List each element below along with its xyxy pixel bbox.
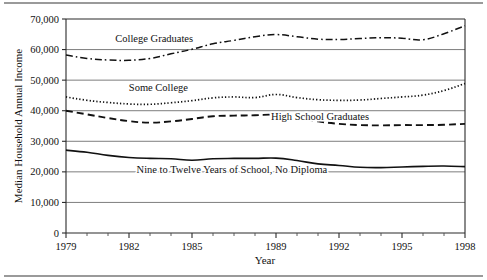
x-tick-label: 1982 (119, 241, 140, 252)
figure-container: 010,00020,00030,00040,00050,00060,00070,… (0, 0, 487, 280)
series-line-1 (66, 84, 465, 105)
series-line-2 (66, 111, 465, 126)
x-tick-label: 1989 (266, 241, 287, 252)
y-tick-label: 30,000 (30, 136, 59, 147)
y-tick-group: 010,00020,00030,00040,00050,00060,00070,… (30, 14, 66, 239)
x-tick-label: 1979 (56, 241, 77, 252)
series-label-0: College Graduates (115, 33, 193, 44)
x-tick-label: 1985 (182, 241, 203, 252)
x-tick-label: 1995 (392, 241, 413, 252)
y-tick-label: 40,000 (30, 105, 59, 116)
series-labels-group: College GraduatesCollege GraduatesSome C… (115, 33, 369, 175)
y-axis-title: Median Household Annual Income (12, 49, 24, 203)
y-tick-label: 70,000 (30, 14, 59, 25)
y-tick-label: 10,000 (30, 197, 59, 208)
series-paths-group (66, 26, 465, 168)
y-tick-label: 60,000 (30, 44, 59, 55)
x-tick-label: 1998 (455, 241, 476, 252)
x-axis-title: Year (255, 254, 276, 266)
series-label-3: Nine to Twelve Years of School, No Diplo… (137, 164, 328, 175)
series-label-1: Some College (129, 82, 189, 93)
y-tick-label: 20,000 (30, 166, 59, 177)
x-tick-group: 1979198219851989199219951998 (56, 233, 476, 252)
line-chart: 010,00020,00030,00040,00050,00060,00070,… (0, 0, 487, 280)
y-tick-label: 50,000 (30, 75, 59, 86)
series-label-2: High School Graduates (271, 111, 369, 122)
x-tick-label: 1992 (329, 241, 350, 252)
y-tick-label: 0 (54, 228, 59, 239)
